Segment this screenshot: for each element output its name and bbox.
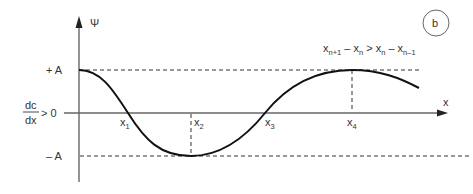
gradient-denominator: dx [25,114,37,126]
y-axis-arrow-icon [76,16,83,28]
panel-label: b [432,17,438,29]
gradient-relation: > 0 [41,107,57,119]
plus-a-label: + A [46,64,63,76]
point-x4: x4 [347,116,357,131]
svg-text:x1: x1 [120,116,130,131]
minus-a-label: – A [46,150,63,162]
spacing-inequality: xn+1 – xn > xn – xn–1 [323,42,416,57]
point-x2: x2 [194,116,204,131]
svg-text:x4: x4 [347,116,357,131]
point-x3: x3 [265,116,275,131]
point-x1: x1 [120,116,130,131]
wave-diagram: Ψ x + A – A dc dx > 0 x1 x2 x3 x4 xn+1 –… [0,0,473,194]
x-axis-arrow-icon [437,110,448,117]
svg-text:xn+1 – xn > xn – xn–1: xn+1 – xn > xn – xn–1 [323,42,416,57]
y-axis-label: Ψ [90,17,99,29]
gradient-numerator: dc [25,99,37,111]
svg-text:x3: x3 [265,116,275,131]
x-axis-label: x [443,96,449,108]
svg-text:x2: x2 [194,116,204,131]
